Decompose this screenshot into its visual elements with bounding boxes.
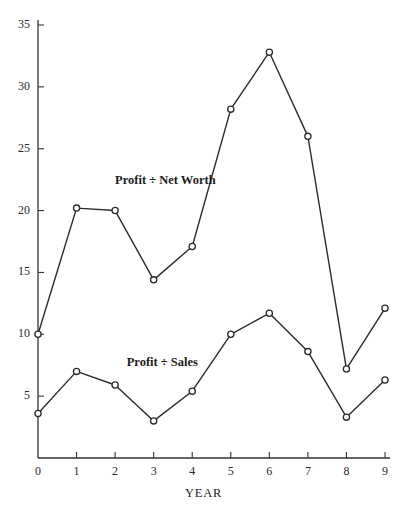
series-line [38, 313, 385, 421]
data-point-marker [343, 414, 349, 420]
data-point-marker [73, 205, 79, 211]
x-axis-tick-label: 2 [100, 464, 130, 479]
data-point-marker [305, 133, 311, 139]
data-point-marker [112, 382, 118, 388]
x-axis-tick-label: 4 [177, 464, 207, 479]
y-axis-tick-label: 20 [0, 203, 30, 218]
data-point-marker [73, 368, 79, 374]
y-axis-tick-label: 25 [0, 141, 30, 156]
x-axis-tick-label: 7 [293, 464, 323, 479]
series-line [38, 52, 385, 369]
x-axis-tick-label: 8 [331, 464, 361, 479]
plot-area [0, 0, 407, 518]
y-axis-tick-label: 5 [0, 388, 30, 403]
data-point-marker [35, 331, 41, 337]
series-label-1: Profit ÷ Net Worth [115, 173, 215, 188]
data-point-marker [382, 377, 388, 383]
data-point-marker [35, 410, 41, 416]
line-chart: 51015202530350123456789Profit ÷ Net Wort… [0, 0, 407, 518]
x-axis-tick-label: 9 [370, 464, 400, 479]
data-point-marker [228, 331, 234, 337]
x-axis-title: YEAR [0, 486, 407, 501]
data-point-marker [343, 366, 349, 372]
data-point-marker [266, 49, 272, 55]
data-point-marker [151, 277, 157, 283]
x-axis-tick-label: 6 [254, 464, 284, 479]
data-point-marker [189, 243, 195, 249]
x-axis-tick-label: 3 [139, 464, 169, 479]
data-point-marker [266, 310, 272, 316]
data-point-marker [112, 207, 118, 213]
x-axis-tick-label: 5 [216, 464, 246, 479]
data-point-marker [305, 349, 311, 355]
data-point-marker [228, 106, 234, 112]
x-axis-tick-label: 1 [62, 464, 92, 479]
data-point-marker [189, 388, 195, 394]
data-point-marker [382, 305, 388, 311]
y-axis-tick-label: 35 [0, 17, 30, 32]
y-axis-tick-label: 10 [0, 326, 30, 341]
data-point-marker [151, 418, 157, 424]
y-axis-tick-label: 15 [0, 264, 30, 279]
series-label-2: Profit ÷ Sales [127, 355, 198, 370]
x-axis-tick-label: 0 [23, 464, 53, 479]
y-axis-tick-label: 30 [0, 79, 30, 94]
